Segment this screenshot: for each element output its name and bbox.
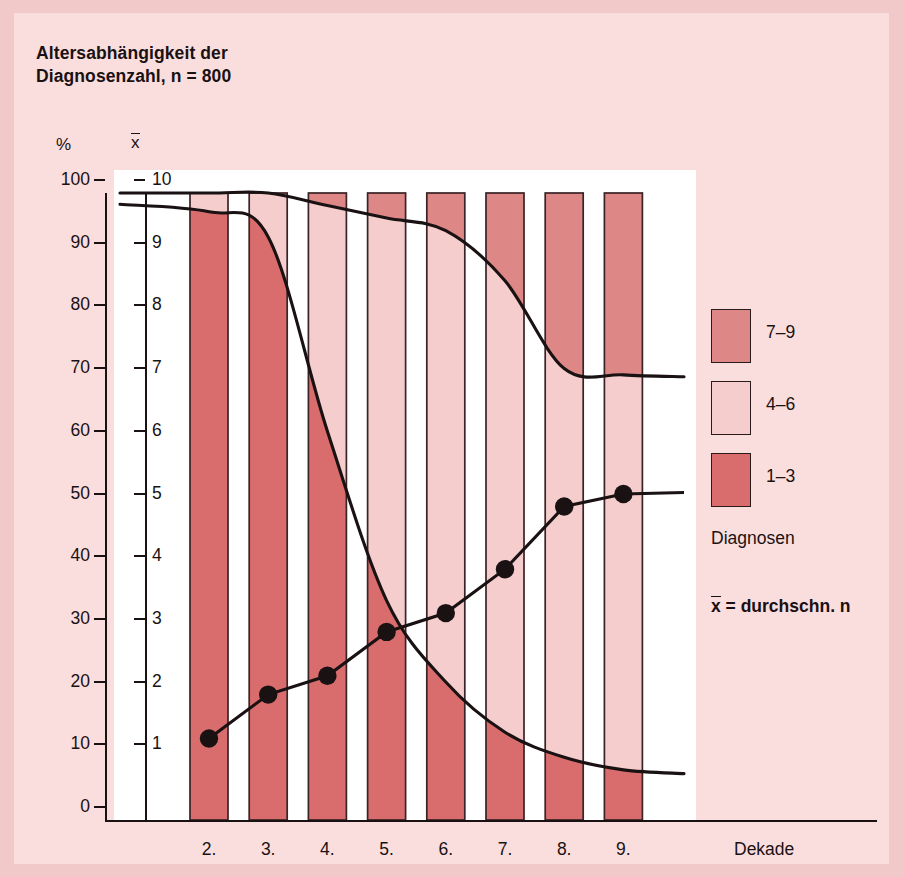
mean-diagnoses-point <box>555 497 573 515</box>
mean-diagnoses-point <box>496 560 514 578</box>
bar-segment-1-3 <box>604 767 642 820</box>
legend-item: 1–3 <box>711 453 901 525</box>
left-tick-mark <box>94 618 105 620</box>
legend-swatch-7-9 <box>711 309 751 363</box>
stacked-bars-and-curves <box>114 170 696 821</box>
bar-segment-4-6 <box>604 375 642 772</box>
right-tick-mark <box>134 618 145 620</box>
right-tick-mark <box>134 555 145 557</box>
left-tick-label: 60 <box>38 420 90 441</box>
mean-diagnoses-point <box>259 685 277 703</box>
left-tick-mark <box>94 367 105 369</box>
x-tick-label: 3. <box>238 839 298 860</box>
right-tick-label: 2 <box>152 671 170 692</box>
bar-segment-7-9 <box>545 193 583 377</box>
xbar-axis-line <box>145 193 147 822</box>
right-tick-mark <box>134 681 145 683</box>
right-tick-label: 3 <box>152 608 170 629</box>
legend: 7–9 4–6 1–3 <box>711 309 901 525</box>
x-tick-label: 2. <box>179 839 239 860</box>
x-tick-label: 8. <box>534 839 594 860</box>
right-tick-label: 6 <box>152 420 170 441</box>
legend-swatch-1-3 <box>711 453 751 507</box>
chart-title: Altersabhängigkeit der Diagnosenzahl, n … <box>36 42 231 88</box>
x-tick-label: 7. <box>475 839 535 860</box>
legend-item: 7–9 <box>711 309 901 381</box>
x-axis-label: Dekade <box>734 839 794 860</box>
right-tick-mark <box>134 304 145 306</box>
right-tick-mark <box>134 367 145 369</box>
right-tick-label: 8 <box>152 294 170 315</box>
legend-note-rest: = durchschn. n <box>721 596 851 616</box>
right-axis-header: x <box>131 133 140 153</box>
legend-note: x = durchschn. n <box>711 596 851 617</box>
xbar-symbol: x <box>131 133 140 152</box>
left-tick-label: 80 <box>38 294 90 315</box>
mean-diagnoses-point <box>437 604 455 622</box>
right-tick-mark <box>134 430 145 432</box>
legend-label-7-9: 7–9 <box>766 322 795 343</box>
mean-diagnoses-point <box>318 667 336 685</box>
x-tick-label: 4. <box>297 839 357 860</box>
right-tick-label: 4 <box>152 545 170 566</box>
chart-panel: Altersabhängigkeit der Diagnosenzahl, n … <box>14 13 889 864</box>
x-tick-label: 6. <box>416 839 476 860</box>
left-tick-label: 90 <box>38 232 90 253</box>
legend-label-1-3: 1–3 <box>766 466 795 487</box>
mean-diagnoses-point <box>377 623 395 641</box>
x-axis-line <box>105 820 877 822</box>
left-tick-label: 40 <box>38 545 90 566</box>
right-tick-mark <box>134 242 145 244</box>
bar-segment-7-9 <box>604 193 642 376</box>
left-tick-mark <box>94 555 105 557</box>
right-tick-label: 5 <box>152 483 170 504</box>
left-tick-label: 100 <box>38 169 90 190</box>
right-tick-mark <box>134 179 145 181</box>
bar-segment-4-6 <box>427 224 465 702</box>
right-tick-label: 9 <box>152 232 170 253</box>
right-tick-mark <box>134 493 145 495</box>
left-tick-mark <box>94 681 105 683</box>
left-tick-label: 30 <box>38 608 90 629</box>
right-tick-label: 1 <box>152 733 170 754</box>
left-tick-mark <box>94 242 105 244</box>
left-tick-mark <box>94 304 105 306</box>
left-tick-label: 50 <box>38 483 90 504</box>
left-tick-mark <box>94 806 105 808</box>
legend-label-4-6: 4–6 <box>766 394 795 415</box>
right-tick-label: 7 <box>152 357 170 378</box>
left-axis-header: % <box>56 135 71 155</box>
xbar-symbol-note: x <box>711 596 721 615</box>
left-tick-mark <box>94 493 105 495</box>
x-tick-label: 9. <box>593 839 653 860</box>
percent-axis-line <box>105 193 107 822</box>
x-tick-label: 5. <box>357 839 417 860</box>
mean-diagnoses-point <box>614 485 632 503</box>
left-tick-label: 0 <box>38 796 90 817</box>
left-tick-label: 10 <box>38 733 90 754</box>
left-tick-mark <box>94 743 105 745</box>
left-tick-mark <box>94 179 105 181</box>
left-tick-label: 70 <box>38 357 90 378</box>
right-tick-mark <box>134 743 145 745</box>
left-tick-label: 20 <box>38 671 90 692</box>
legend-swatch-4-6 <box>711 381 751 435</box>
bar-segment-4-6 <box>486 261 524 743</box>
legend-caption: Diagnosen <box>711 528 795 549</box>
legend-item: 4–6 <box>711 381 901 453</box>
mean-diagnoses-point <box>200 729 218 747</box>
bar-segment-4-6 <box>545 345 583 762</box>
bar-segment-1-3 <box>249 215 287 820</box>
left-tick-mark <box>94 430 105 432</box>
right-tick-label: 10 <box>152 169 170 190</box>
plot-area <box>114 170 696 821</box>
